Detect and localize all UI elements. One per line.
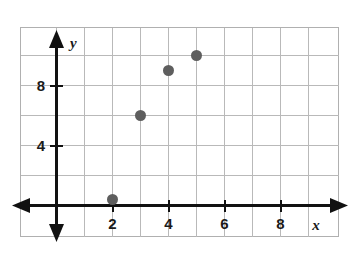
chart-canvas: 8 4 2 4 6 8 y x: [0, 0, 361, 256]
y-tick-label-4: 4: [37, 137, 46, 154]
x-tick-label-6: 6: [220, 215, 228, 232]
y-axis-up-arrow-icon: [49, 30, 64, 48]
y-axis: [49, 30, 64, 242]
x-tick-label-2: 2: [108, 215, 116, 232]
data-points: [107, 50, 202, 205]
data-point: [135, 110, 146, 121]
data-point: [107, 194, 118, 205]
x-tick-label-4: 4: [164, 215, 173, 232]
y-tick-label-8: 8: [37, 77, 45, 94]
x-axis: [12, 198, 348, 213]
x-tick-label-8: 8: [276, 215, 284, 232]
data-point: [163, 65, 174, 76]
data-point: [191, 50, 202, 61]
horizontal-gridlines: [21, 56, 339, 206]
y-axis-down-arrow-icon: [49, 224, 64, 242]
y-axis-name: y: [68, 35, 77, 51]
x-axis-name: x: [311, 217, 320, 233]
scatter-plot: 8 4 2 4 6 8 y x: [0, 0, 361, 256]
